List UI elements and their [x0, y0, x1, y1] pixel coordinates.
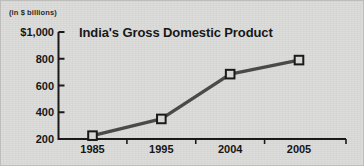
data-point-marker [88, 131, 97, 140]
x-axis-tick-label: 1995 [149, 143, 173, 155]
data-point-marker [157, 115, 166, 124]
x-axis-tick-label: 2005 [287, 143, 311, 155]
y-axis-tick-label: 400 [36, 106, 54, 118]
y-axis-tick-label: 200 [36, 133, 54, 145]
plot-area: $1,000800600400200 1985199520042005 [1, 1, 364, 166]
y-axis-tick-label: $1,000 [20, 26, 54, 38]
series-line [93, 60, 300, 136]
x-axis-tick-label: 1985 [80, 143, 104, 155]
axis-spine [59, 32, 347, 139]
y-axis-tick-label: 600 [36, 80, 54, 92]
y-axis-tick-label: 800 [36, 53, 54, 65]
chart-figure: (in $ billions) India's Gross Domestic P… [0, 0, 364, 166]
data-point-marker [226, 70, 235, 79]
data-point-marker [295, 56, 304, 65]
plot-svg [1, 1, 364, 166]
y-axis-labels: $1,000800600400200 [1, 1, 54, 166]
x-axis-tick-label: 2004 [218, 143, 242, 155]
